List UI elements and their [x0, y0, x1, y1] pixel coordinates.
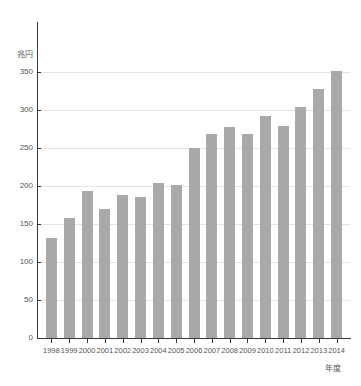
y-tick-label: 300: [20, 105, 33, 114]
x-tick-mark: [51, 339, 52, 343]
y-tick-label: 250: [20, 143, 33, 152]
bar: [117, 195, 128, 338]
y-tick-label: 100: [20, 257, 33, 266]
y-tick-label: 50: [24, 295, 33, 304]
x-tick-mark: [230, 339, 231, 343]
x-tick-mark: [283, 339, 284, 343]
x-tick-mark: [158, 339, 159, 343]
y-tick-label: 0: [29, 333, 33, 342]
y-tick-mark: [38, 224, 41, 225]
x-tick-mark: [194, 339, 195, 343]
bar: [313, 89, 324, 338]
bar: [99, 209, 110, 338]
x-tick-mark: [301, 339, 302, 343]
bars-layer: [38, 22, 351, 338]
y-tick-mark: [38, 300, 41, 301]
bar: [189, 148, 200, 338]
y-tick-mark: [38, 186, 41, 187]
x-tick-mark: [247, 339, 248, 343]
y-tick-mark: [38, 72, 41, 73]
bar: [153, 183, 164, 338]
x-tick-mark: [319, 339, 320, 343]
x-tick-mark: [87, 339, 88, 343]
bar-chart: 兆円 050100150200250300350 199819992000200…: [0, 0, 361, 386]
bar: [295, 107, 306, 338]
bar: [135, 197, 146, 338]
x-axis-unit-label: 年度: [325, 362, 341, 373]
x-tick-mark: [69, 339, 70, 343]
bar: [64, 218, 75, 338]
bar: [331, 71, 342, 338]
y-tick-label: 200: [20, 181, 33, 190]
bar: [242, 134, 253, 338]
bar: [46, 238, 57, 338]
y-tick-label: 350: [20, 67, 33, 76]
x-tick-mark: [105, 339, 106, 343]
bar: [82, 191, 93, 338]
bar: [206, 134, 217, 338]
y-axis-tick-labels: 050100150200250300350: [0, 0, 33, 386]
x-tick-mark: [176, 339, 177, 343]
y-tick-mark: [38, 262, 41, 263]
x-tick-mark: [212, 339, 213, 343]
bar: [171, 185, 182, 338]
bar: [278, 126, 289, 338]
bar: [224, 127, 235, 338]
bar: [260, 116, 271, 338]
y-tick-mark: [38, 338, 41, 339]
y-tick-mark: [38, 148, 41, 149]
x-tick-label: 2014: [324, 346, 350, 355]
x-tick-mark: [141, 339, 142, 343]
x-tick-mark: [265, 339, 266, 343]
x-tick-mark: [123, 339, 124, 343]
y-tick-mark: [38, 110, 41, 111]
x-tick-mark: [337, 339, 338, 343]
y-tick-label: 150: [20, 219, 33, 228]
